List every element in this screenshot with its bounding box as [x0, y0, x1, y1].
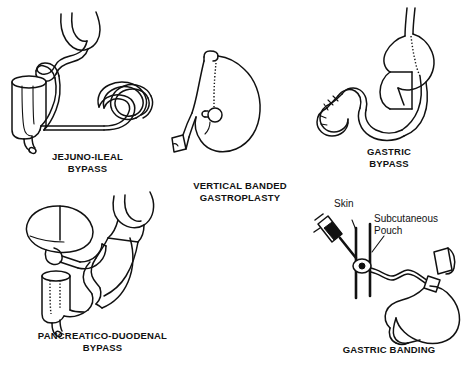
vertical-banded-gastroplasty-illustration: [160, 45, 320, 180]
pancreatico-duodenal-bypass-illustration: [10, 192, 195, 337]
panel-gastric-bypass: GASTRIC BYPASS: [312, 6, 466, 186]
figure-canvas: JEJUNO-ILEAL BYPASS: [0, 0, 466, 373]
gastric-bypass-illustration: [312, 6, 466, 156]
gastric-banding-illustration: [312, 214, 466, 354]
jejuno-ileal-bypass-illustration: [0, 8, 175, 158]
caption-gastric-bypass: GASTRIC BYPASS: [312, 146, 466, 170]
panel-gastric-banding: Skin Subcutaneous Pouch: [312, 196, 466, 373]
caption-jejuno-ileal-bypass: JEJUNO-ILEAL BYPASS: [0, 151, 175, 175]
caption-pancreatico-duodenal-bypass: PANCREATICO-DUODENAL BYPASS: [10, 330, 195, 354]
panel-pancreatico-duodenal-bypass: PANCREATICO-DUODENAL BYPASS: [10, 192, 195, 373]
caption-gastric-banding: GASTRIC BANDING: [312, 344, 466, 356]
annotation-skin: Skin: [334, 198, 353, 210]
panel-jejuno-ileal-bypass: JEJUNO-ILEAL BYPASS: [0, 8, 175, 183]
